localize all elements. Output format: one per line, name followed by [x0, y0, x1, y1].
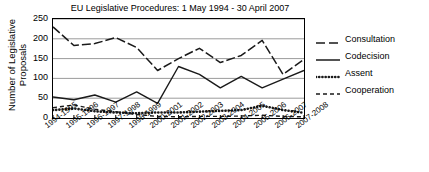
- legend-swatch-assent-icon: [316, 68, 340, 78]
- legend-item-cooperation[interactable]: Cooperation: [316, 81, 429, 98]
- legend-label: Consultation: [345, 34, 395, 44]
- chart-legend: ConsultationCodecisionAssentCooperation: [316, 30, 429, 98]
- legend-label: Codecision: [345, 51, 390, 61]
- legend-swatch-consultation-icon: [316, 34, 340, 44]
- legend-swatch-cooperation-icon: [316, 85, 340, 95]
- legend-label: Assent: [345, 68, 373, 78]
- chart-container: EU Legislative Procedures: 1 May 1994 - …: [0, 0, 429, 172]
- legend-label: Cooperation: [345, 85, 394, 95]
- legend-item-assent[interactable]: Assent: [316, 64, 429, 81]
- legend-item-consultation[interactable]: Consultation: [316, 30, 429, 47]
- legend-item-codecision[interactable]: Codecision: [316, 47, 429, 64]
- legend-swatch-codecision-icon: [316, 51, 340, 61]
